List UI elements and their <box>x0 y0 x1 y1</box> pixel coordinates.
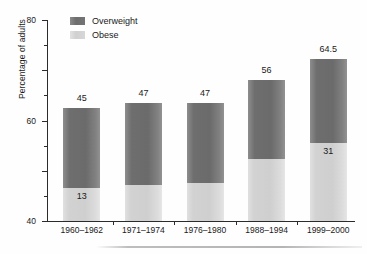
y-tick-major: 80 <box>42 20 47 21</box>
x-axis-category-label: 1976–1980 <box>184 226 227 235</box>
bar-obese-value-label: 31 <box>323 147 333 156</box>
bar-stack[interactable]: 4513 <box>63 108 100 221</box>
y-tick-minor <box>44 196 47 197</box>
x-axis-category-label: 1971–1974 <box>122 226 165 235</box>
bar-stack[interactable]: 47 <box>187 103 224 221</box>
bar-stack[interactable]: 56 <box>248 80 285 221</box>
y-axis-line <box>47 20 48 222</box>
x-axis-category-label: 1988–1994 <box>245 226 288 235</box>
x-axis-line <box>47 221 355 222</box>
y-tick-label: 60 <box>27 116 36 125</box>
bar-obese-value-label: 13 <box>77 192 87 201</box>
x-tick <box>174 221 175 225</box>
y-tick-minor <box>44 146 47 147</box>
plot-area: 020406080 451347475664.531 1960–19621971… <box>47 20 355 222</box>
y-tick-minor <box>44 45 47 46</box>
bar-segment-obese[interactable] <box>248 159 285 221</box>
y-tick-major: 20 <box>42 171 47 172</box>
x-tick <box>297 221 298 225</box>
stacked-bar-chart: Percentage of adults Overweight Obese 02… <box>0 0 367 254</box>
x-tick <box>236 221 237 225</box>
x-axis-category-label: 1960–1962 <box>61 226 104 235</box>
x-axis-category-label: 1999–2000 <box>307 226 350 235</box>
bar-total-label: 47 <box>138 89 148 98</box>
bar-total-label: 47 <box>200 89 210 98</box>
bar-segment-obese[interactable] <box>187 183 224 221</box>
y-tick-major: 60 <box>42 70 47 71</box>
x-tick <box>113 221 114 225</box>
bar-stack[interactable]: 64.531 <box>310 59 347 221</box>
bar-segment-overweight[interactable] <box>187 103 224 183</box>
y-tick-major: 40 <box>42 121 47 122</box>
bar-stack[interactable]: 47 <box>125 103 162 221</box>
y-tick-minor <box>44 95 47 96</box>
y-tick-label: 40 <box>27 217 36 226</box>
y-tick-label: 80 <box>27 16 36 25</box>
bar-segment-overweight[interactable] <box>310 59 347 143</box>
scan-artifact-line <box>96 246 362 248</box>
y-axis-title: Percentage of adults <box>17 0 27 129</box>
y-tick-major: 0 <box>42 221 47 222</box>
bar-total-label: 64.5 <box>319 45 337 54</box>
bar-total-label: 56 <box>262 66 272 75</box>
bar-total-label: 45 <box>77 94 87 103</box>
bar-segment-overweight[interactable] <box>63 108 100 188</box>
bar-segment-overweight[interactable] <box>125 103 162 185</box>
bar-segment-overweight[interactable] <box>248 80 285 159</box>
bar-segment-obese[interactable] <box>125 185 162 221</box>
